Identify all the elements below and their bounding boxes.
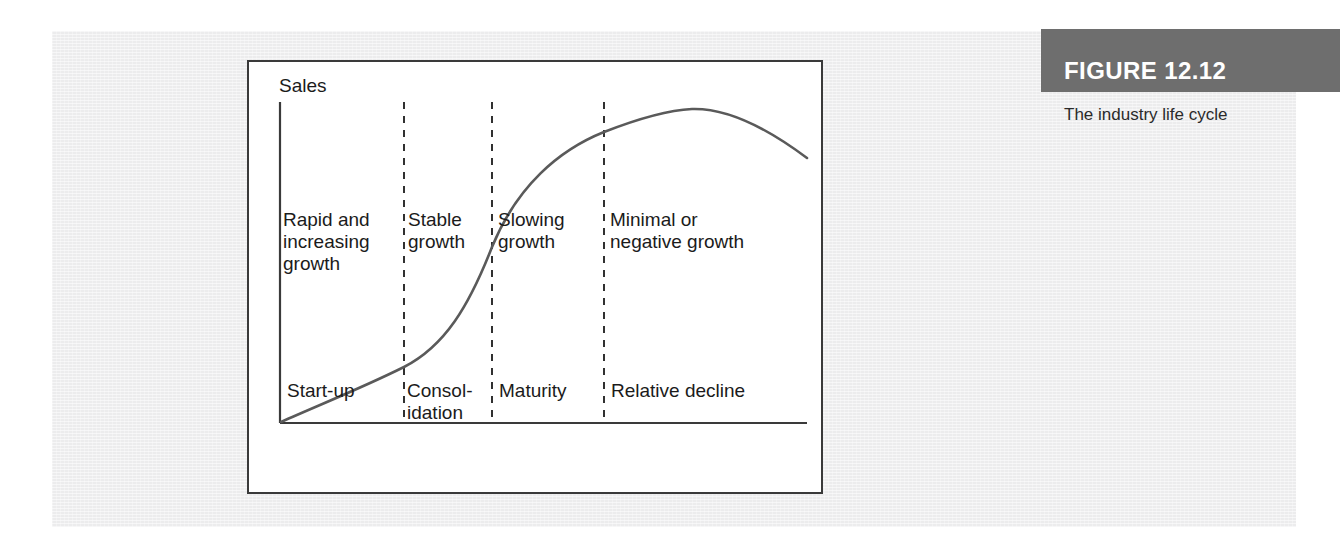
figure-caption: The industry life cycle: [1064, 105, 1340, 125]
phase-label-startup: Rapid and increasing growth: [283, 209, 370, 275]
stage-label-startup: Start-up: [287, 380, 355, 402]
phase-label-consolidation: Stable growth: [408, 209, 465, 253]
figure-caption-block: FIGURE 12.12 The industry life cycle: [1041, 29, 1340, 125]
stage-label-maturity: Maturity: [499, 380, 567, 402]
stage-label-relative-decline: Relative decline: [611, 380, 745, 402]
figure-number: FIGURE 12.12: [1064, 57, 1226, 85]
y-axis-label: Sales: [279, 75, 327, 97]
stage-label-consolidation: Consol- idation: [407, 380, 472, 424]
industry-life-cycle-chart: [249, 62, 825, 496]
phase-label-relative-decline: Minimal or negative growth: [610, 209, 744, 253]
figure-number-bar: FIGURE 12.12: [1041, 29, 1340, 92]
figure-chart-box: Sales Rapid and increasing growth Stable…: [247, 60, 823, 494]
phase-label-maturity: Slowing growth: [498, 209, 565, 253]
